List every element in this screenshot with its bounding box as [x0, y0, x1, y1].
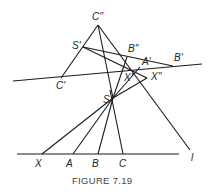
label-a-prime: A'	[141, 56, 152, 67]
label-l: l	[191, 152, 194, 163]
label-a: A	[65, 158, 73, 169]
projective-construction-diagram: C'' S' B'' A' B' C' X' X'' S l X A B C F…	[0, 0, 211, 194]
label-b-prime: B'	[174, 52, 184, 63]
line-l	[98, 25, 190, 150]
line-s-a	[73, 98, 113, 154]
figure-caption: FIGURE 7.19	[72, 175, 132, 186]
line-s-c	[110, 90, 123, 154]
label-c-double-prime: C''	[92, 11, 104, 22]
label-x: X	[34, 158, 42, 169]
label-c: C	[119, 158, 127, 169]
label-s: S	[103, 94, 110, 105]
label-c-prime: C'	[56, 80, 66, 91]
label-x-double-prime: X''	[150, 71, 163, 82]
line-s-b	[98, 98, 113, 154]
label-s-prime: S'	[72, 40, 82, 51]
line-s-x	[42, 98, 113, 154]
label-x-prime: X'	[123, 72, 134, 83]
label-b: B	[92, 158, 99, 169]
label-b-double-prime: B''	[128, 43, 140, 54]
